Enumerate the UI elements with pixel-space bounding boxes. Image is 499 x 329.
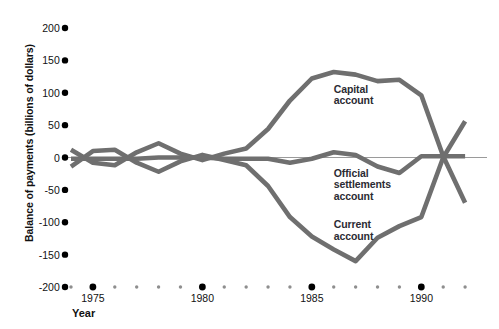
y-tick-dot (62, 219, 68, 225)
x-axis-tick-dots (69, 284, 467, 291)
y-tick-label: 50 (26, 119, 60, 131)
x-tick-dot-minor (157, 285, 160, 288)
annotation-official-line2: settlements (334, 179, 391, 191)
y-tick-label: 100 (26, 87, 60, 99)
x-tick-label: 1980 (182, 292, 222, 304)
x-tick-label: 1990 (401, 292, 441, 304)
x-tick-dot-major (308, 284, 315, 291)
y-tick-label: 0 (26, 152, 60, 164)
y-tick-label: -50 (26, 184, 60, 196)
x-tick-dot-minor (69, 285, 72, 288)
y-tick-dot (62, 57, 68, 63)
annotation-current-line2: account (334, 231, 374, 243)
y-tick-dot (62, 122, 68, 128)
annotation-capital-account: Capital account (334, 84, 374, 107)
x-tick-dot-minor (442, 285, 445, 288)
line-chart-canvas (0, 0, 499, 329)
x-tick-dot-minor (332, 285, 335, 288)
x-tick-dot-minor (266, 285, 269, 288)
annotation-current-account: Current account (334, 219, 374, 242)
x-tick-dot-minor (463, 285, 466, 288)
y-tick-dot (62, 284, 68, 290)
x-tick-dot-minor (354, 285, 357, 288)
y-tick-label: -200 (26, 281, 60, 293)
x-tick-dot-minor (398, 285, 401, 288)
x-tick-dot-minor (288, 285, 291, 288)
x-axis-title: Year (72, 307, 95, 319)
y-tick-label: 150 (26, 54, 60, 66)
y-tick-dot (62, 90, 68, 96)
x-tick-dot-major (199, 284, 206, 291)
y-axis-tick-dots (62, 25, 68, 290)
y-tick-dot (62, 25, 68, 31)
x-tick-dot-minor (376, 285, 379, 288)
y-tick-label: 200 (26, 22, 60, 34)
x-tick-label: 1975 (73, 292, 113, 304)
x-tick-dot-minor (113, 285, 116, 288)
x-tick-label: 1985 (292, 292, 332, 304)
annotation-official-line3: account (334, 191, 391, 203)
x-tick-dot-minor (223, 285, 226, 288)
annotation-capital-line2: account (334, 95, 374, 107)
x-tick-dot-major (89, 284, 96, 291)
y-tick-dot (62, 187, 68, 193)
y-tick-label: -150 (26, 249, 60, 261)
chart-figure: Balance of payments (billions of dollars… (0, 0, 499, 329)
x-tick-dot-minor (244, 285, 247, 288)
y-tick-dot (62, 154, 68, 160)
x-tick-dot-major (418, 284, 425, 291)
x-tick-dot-minor (135, 285, 138, 288)
annotation-official-settlements-account: Official settlements account (334, 168, 391, 203)
y-tick-dot (62, 251, 68, 257)
y-tick-label: -100 (26, 216, 60, 228)
series-line-1 (71, 121, 465, 261)
series-lines (71, 72, 465, 261)
x-tick-dot-minor (179, 285, 182, 288)
